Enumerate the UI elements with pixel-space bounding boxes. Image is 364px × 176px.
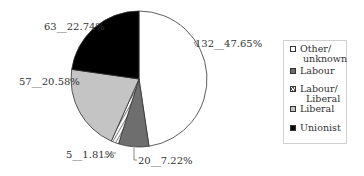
label-other: 132__47.65% (195, 38, 262, 49)
swatch-lightgray-icon (290, 106, 296, 112)
swatch-hatched-icon (290, 86, 296, 92)
chart-legend: Other/ unknown Labour Labour/ Liberal Li… (283, 40, 347, 144)
swatch-black-icon (290, 125, 296, 131)
legend-item-labour: Labour (290, 66, 346, 76)
label-unionist: 63__22.74% (44, 21, 105, 32)
leader-line-labour (134, 148, 137, 160)
legend-item-unionist: Unionist (290, 123, 346, 133)
slice-other (139, 11, 207, 146)
legend-item-other: Other/ unknown (290, 44, 346, 64)
label-labour-liberal: 5__1.81% (66, 149, 114, 160)
legend-item-liberal: Liberal (290, 104, 346, 114)
legend-item-labour-liberal: Labour/ Liberal (290, 84, 346, 104)
label-liberal: 57__20.58% (19, 76, 80, 87)
swatch-white-icon (290, 46, 296, 52)
swatch-darkgray-icon (290, 68, 296, 74)
label-labour: 20__7.22% (138, 155, 193, 166)
